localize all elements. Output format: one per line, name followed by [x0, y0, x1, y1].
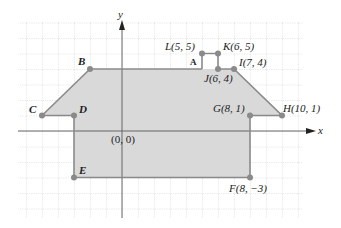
- label-d: D: [78, 103, 87, 115]
- point-d: [71, 113, 77, 119]
- label-k: K(6, 5): [222, 40, 255, 53]
- point-l: [199, 51, 205, 57]
- coordinate-plane: y x (0, 0) B C D E F(8, −3) G(8, 1) H(10…: [0, 0, 341, 228]
- label-l: L(5, 5): [164, 40, 195, 53]
- label-g: G(8, 1): [213, 102, 245, 115]
- label-f: F(8, −3): [228, 182, 267, 195]
- x-axis-label: x: [317, 124, 323, 136]
- point-e: [71, 175, 77, 181]
- point-k: [215, 51, 221, 57]
- x-axis-arrow-icon: [306, 128, 316, 134]
- label-c: C: [29, 103, 37, 115]
- region-a-tab: [202, 54, 218, 70]
- label-b: B: [77, 55, 85, 67]
- y-axis-label: y: [117, 8, 123, 20]
- origin-label: (0, 0): [111, 133, 135, 146]
- point-g: [247, 113, 253, 119]
- label-e: E: [78, 164, 86, 176]
- label-j: J(6, 4): [204, 72, 233, 85]
- point-f: [247, 175, 253, 181]
- point-b: [87, 66, 93, 72]
- shaded-region: [42, 69, 282, 178]
- label-i: I(7, 4): [238, 56, 267, 69]
- point-c: [39, 113, 45, 119]
- label-region-a: A: [190, 57, 197, 67]
- label-h: H(10, 1): [282, 102, 321, 115]
